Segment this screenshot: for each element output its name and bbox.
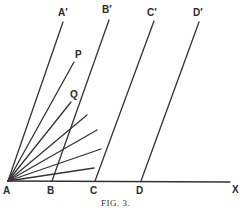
baseline-AX [8, 181, 230, 182]
label-Q: Q [70, 89, 78, 100]
label-C: C [90, 185, 97, 196]
label-A: A [3, 185, 10, 196]
geometry-figure: A B C D X A′ B′ C′ D′ P Q FIG. 3. [0, 0, 243, 212]
label-B: B [47, 185, 54, 196]
label-C-prime: C′ [147, 7, 157, 18]
label-B-prime: B′ [102, 4, 112, 15]
line-AA-prime [8, 22, 63, 181]
label-D-prime: D′ [193, 7, 203, 18]
label-X: X [232, 184, 239, 195]
line-CC-prime [95, 21, 154, 181]
line-BB-prime [52, 20, 109, 181]
label-D: D [136, 185, 143, 196]
line-DD-prime [141, 22, 199, 181]
label-A-prime: A′ [58, 7, 68, 18]
ray-AQ [8, 102, 71, 181]
label-P: P [75, 49, 82, 60]
figure-canvas: A B C D X A′ B′ C′ D′ P Q FIG. 3. [0, 0, 243, 212]
figure-caption: FIG. 3. [101, 198, 130, 208]
ray-AP [8, 62, 74, 181]
